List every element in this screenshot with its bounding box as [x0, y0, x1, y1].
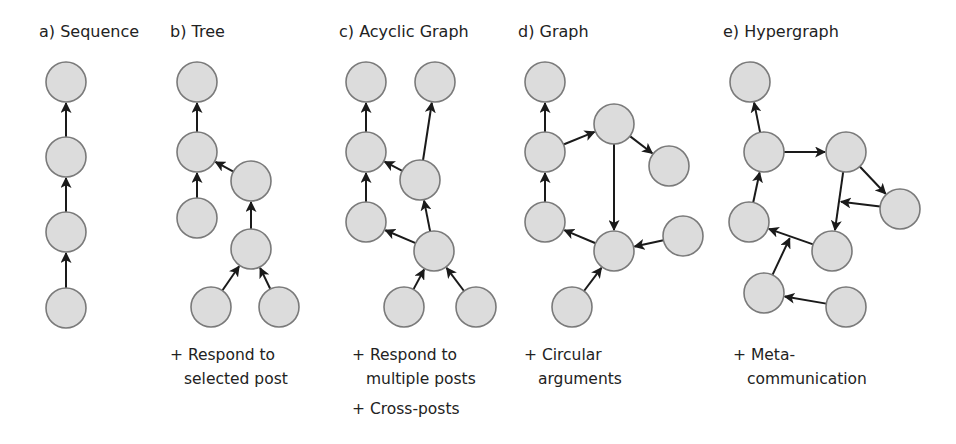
note-line: communication — [733, 367, 867, 391]
hypergraph-edge — [860, 167, 886, 194]
note-line: + Cross-posts — [352, 397, 460, 421]
note-line: + Meta- — [733, 343, 867, 367]
graph-post-node — [594, 104, 634, 144]
acyclic-graph-post-node — [346, 202, 386, 242]
hypergraph-post-node — [880, 189, 920, 229]
acyclic-graph-edge — [447, 268, 464, 291]
hypergraph-edge — [769, 229, 813, 244]
acyclic-graph-post-node — [415, 62, 455, 102]
acyclic-graph-edge — [385, 230, 415, 243]
graph-post-node — [649, 146, 689, 186]
hypergraph-post-node — [744, 132, 784, 172]
panel-title-graph: d) Graph — [518, 22, 589, 41]
acyclic-graph-edge — [424, 201, 430, 232]
hypergraph-meta-edge — [841, 202, 880, 207]
hypergraph-post-node — [730, 62, 770, 102]
acyclic-graph-post-node — [456, 287, 496, 327]
tree-post-node — [191, 287, 231, 327]
graph-post-node — [663, 216, 703, 256]
sequence-post-node — [46, 212, 86, 252]
tree-post-node — [231, 161, 271, 201]
tree-post-node — [259, 287, 299, 327]
graph-post-node — [525, 132, 565, 172]
graph-post-node — [525, 202, 565, 242]
hypergraph-post-node — [826, 132, 866, 172]
sequence-post-node — [46, 288, 86, 328]
panel-title-tree: b) Tree — [170, 22, 225, 41]
acyclic-graph-edge — [413, 270, 424, 290]
hypergraph-edge — [754, 103, 760, 133]
acyclic-graph-edge — [423, 103, 432, 160]
tree-edge — [216, 162, 234, 172]
hypergraph-edge — [785, 297, 827, 304]
graph-edge — [630, 136, 652, 153]
acyclic-graph-post-node — [400, 160, 440, 200]
hypergraph-post-node — [812, 231, 852, 271]
graph-edge — [584, 268, 601, 291]
hypergraph-post-node — [826, 287, 866, 327]
panel-title-sequence: a) Sequence — [39, 22, 139, 41]
note-line: multiple posts — [352, 367, 476, 391]
acyclic-graph-post-node — [346, 62, 386, 102]
sequence-post-node — [46, 62, 86, 102]
hypergraph-edge — [753, 173, 759, 203]
tree-edge — [222, 266, 239, 290]
graph-edge — [564, 132, 595, 145]
graph-edge — [635, 240, 664, 246]
note-line: + Respond to — [352, 343, 476, 367]
hypergraph-post-node — [729, 202, 769, 242]
note-tree-respond-selected: + Respond to selected post — [170, 343, 288, 391]
tree-post-node — [177, 198, 217, 238]
sequence-post-node — [46, 137, 86, 177]
acyclic-graph-post-node — [384, 287, 424, 327]
note-line: + Respond to — [170, 343, 288, 367]
tree-post-node — [231, 229, 271, 269]
panel-title-hypergraph: e) Hypergraph — [723, 22, 839, 41]
acyclic-graph-post-node — [414, 231, 454, 271]
tree-post-node — [177, 62, 217, 102]
acyclic-graph-edge — [385, 162, 403, 171]
tree-post-node — [177, 132, 217, 172]
note-line: arguments — [524, 367, 622, 391]
note-line: + Circular — [524, 343, 622, 367]
nodes-layer — [46, 62, 920, 328]
note-line: selected post — [170, 367, 288, 391]
acyclic-graph-post-node — [346, 132, 386, 172]
note-hypergraph-meta: + Meta- communication — [733, 343, 867, 391]
panel-title-acyclic-graph: c) Acyclic Graph — [339, 22, 469, 41]
graph-edge — [564, 230, 595, 243]
graph-post-node — [525, 62, 565, 102]
note-acyclic-cross-posts: + Cross-posts — [352, 397, 460, 421]
note-graph-circular: + Circular arguments — [524, 343, 622, 391]
hypergraph-meta-edge — [772, 238, 789, 275]
graph-post-node — [594, 231, 634, 271]
tree-edge — [260, 268, 270, 289]
hypergraph-post-node — [744, 273, 784, 313]
note-acyclic-respond-multiple: + Respond to multiple posts — [352, 343, 476, 391]
graph-post-node — [552, 287, 592, 327]
